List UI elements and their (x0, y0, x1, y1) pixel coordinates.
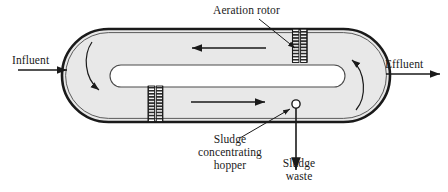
sludge-waste-label: Sludge waste (273, 157, 325, 183)
sludge-concentrating-hopper-label: Sludge concentrating hopper (182, 133, 278, 172)
sludge-hopper-symbol (292, 100, 300, 108)
oxidation-ditch-diagram: Aeration rotor Influent Effluent Sludge … (0, 0, 448, 192)
aeration-rotor-label: Aeration rotor (213, 4, 280, 17)
influent-label: Influent (12, 54, 49, 67)
center-baffle-island (110, 65, 345, 87)
effluent-label: Effluent (385, 58, 423, 71)
